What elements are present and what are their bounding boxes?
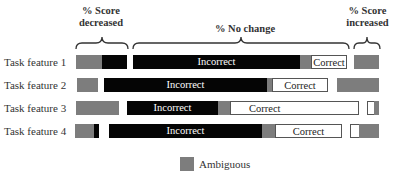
header-score-decreased-line1: % Score (66, 5, 136, 17)
bar-r4-nochange-ambiguous (262, 124, 275, 138)
header-score-decreased-line2: decreased (66, 17, 136, 29)
bar-r1-increased-ambiguous (354, 55, 379, 69)
brace-decreased-icon (74, 34, 130, 50)
row-label-task-feature-4: Task feature 4 (4, 124, 66, 138)
bar-r1-decreased-incorrect (102, 55, 127, 69)
bar-r4-decreased-ambiguous (75, 124, 94, 138)
bar-r1-decreased-ambiguous (76, 55, 102, 69)
bar-r4-decreased-incorrect (94, 124, 99, 138)
legend-ambiguous-label: Ambiguous (199, 157, 250, 171)
row-label-task-feature-1: Task feature 1 (4, 55, 66, 69)
bar-r4-nochange-incorrect: Incorrect (109, 124, 262, 138)
brace-no-change-icon (131, 34, 351, 50)
header-score-increased-line1: % Score (340, 5, 395, 17)
bar-r1-nochange-correct: Correct (311, 55, 347, 69)
bar-r3-nochange-ambiguous (218, 101, 230, 115)
bar-r3-decreased-ambiguous (76, 101, 119, 115)
header-score-decreased: % Score decreased (66, 5, 136, 29)
bar-r2-decreased-ambiguous (77, 78, 98, 92)
header-score-increased: % Score increased (340, 5, 395, 29)
row-label-task-feature-2: Task feature 2 (4, 78, 66, 92)
bar-r2-increased-ambiguous (337, 78, 379, 92)
bar-r1-nochange-ambiguous (300, 55, 311, 69)
bar-r4-nochange-correct: Correct (275, 124, 342, 138)
row-label-task-feature-3: Task feature 3 (4, 101, 66, 115)
bar-r4-increased-ambiguous (359, 124, 379, 138)
bar-r3-nochange-correct: Correct (230, 101, 359, 115)
legend-ambiguous-swatch (180, 157, 194, 171)
bar-r3-nochange-incorrect: Incorrect (127, 101, 218, 115)
bar-r2-nochange-incorrect: Incorrect (104, 78, 267, 92)
bar-r3-increased-ambiguous (374, 101, 379, 115)
header-score-increased-line2: increased (340, 17, 395, 29)
brace-increased-icon (352, 34, 382, 50)
bar-r2-nochange-correct: Correct (272, 78, 328, 92)
bar-r1-nochange-incorrect: Incorrect (133, 55, 300, 69)
